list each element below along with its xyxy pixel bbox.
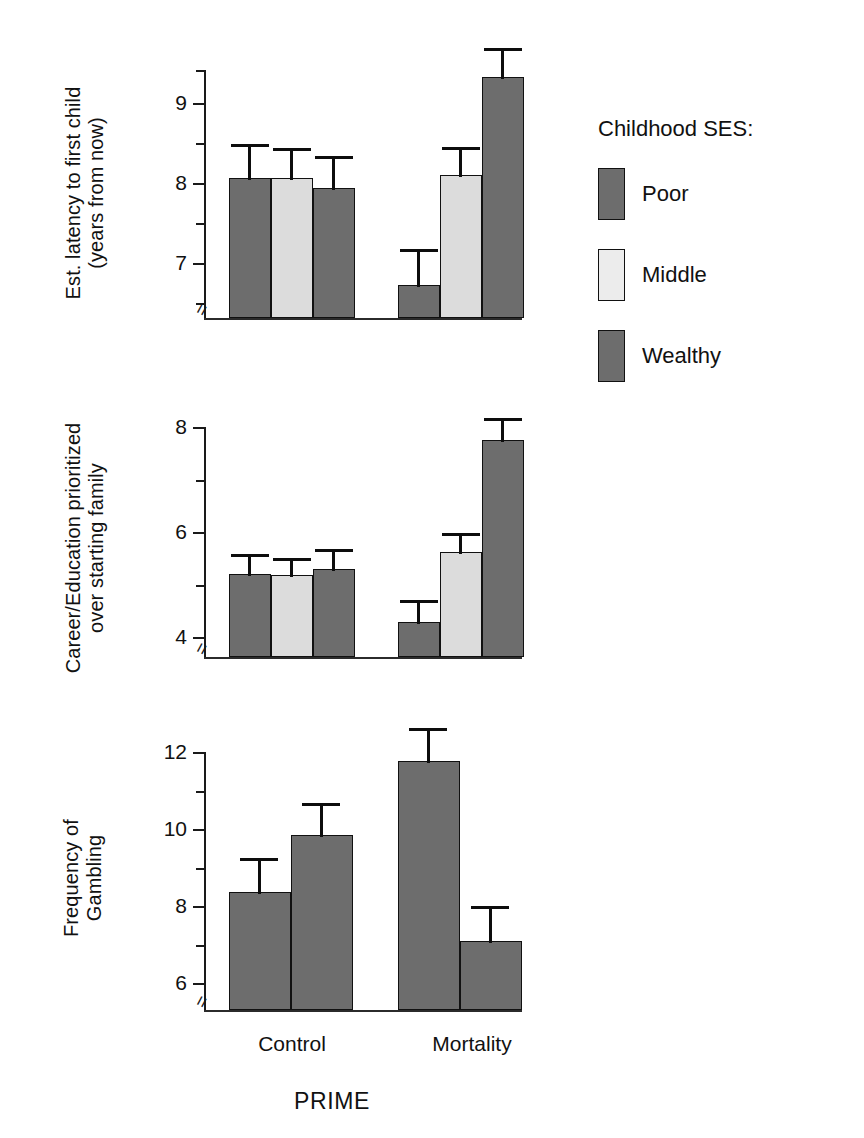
errorbar-latency-mortality-wealthy-cap bbox=[484, 48, 522, 51]
figure-canvas: Est. latency to first child (years from … bbox=[0, 0, 864, 1138]
bar-career-mortality-middle bbox=[440, 552, 482, 657]
bar-career-control-wealthy bbox=[313, 569, 355, 657]
errorbar-career-control-middle-cap bbox=[273, 558, 311, 561]
bar-latency-mortality-poor bbox=[398, 285, 440, 318]
legend-item-poor[interactable]: Poor bbox=[598, 168, 858, 220]
errorbar-career-control-wealthy-stem bbox=[332, 549, 335, 571]
panel-3-ticklabel-10: 10 bbox=[134, 818, 187, 839]
panel-1-minor-tick-9p5 bbox=[196, 70, 204, 72]
errorbar-latency-control-poor-cap bbox=[231, 144, 269, 147]
legend-item-middle[interactable]: Middle bbox=[598, 249, 858, 301]
panel-3-ticklabel-12: 12 bbox=[134, 741, 187, 762]
bar-gambling-mortality-2 bbox=[460, 941, 522, 1010]
errorbar-gambling-mortality-1-cap bbox=[409, 728, 447, 731]
panel-1-ticklabel-7: 7 bbox=[145, 252, 187, 273]
errorbar-latency-control-wealthy-stem bbox=[332, 156, 335, 190]
panel-1-tick-8 bbox=[193, 183, 204, 185]
bar-career-control-poor bbox=[229, 574, 271, 657]
errorbar-latency-mortality-middle-cap bbox=[442, 147, 480, 150]
bar-latency-control-middle bbox=[271, 178, 313, 318]
panel-1-plot-area: = 9 8 7 bbox=[0, 0, 600, 380]
errorbar-career-mortality-middle-stem bbox=[459, 533, 462, 554]
panel-1-minor-tick-7p5 bbox=[196, 223, 204, 225]
legend-swatch-wealthy bbox=[598, 330, 625, 382]
legend-swatch-middle bbox=[598, 249, 625, 301]
legend-swatch-poor bbox=[598, 168, 625, 220]
bar-gambling-mortality-1 bbox=[398, 761, 460, 1010]
panel-3-minor-tick-7 bbox=[196, 945, 204, 947]
panel-2-minor-tick-7 bbox=[196, 480, 204, 482]
panel-3-ticklabel-8: 8 bbox=[134, 895, 187, 916]
panel-3-minor-tick-11 bbox=[196, 791, 204, 793]
panel-2-axis-break-icon: = bbox=[191, 639, 213, 658]
panel-2-x-axis-line bbox=[204, 657, 522, 659]
errorbar-gambling-mortality-2-cap bbox=[471, 906, 509, 909]
errorbar-latency-control-middle-cap bbox=[273, 148, 311, 151]
legend-label-middle: Middle bbox=[642, 262, 707, 288]
bar-latency-control-poor bbox=[229, 178, 271, 318]
panel-2-tick-4 bbox=[193, 637, 204, 639]
legend: Childhood SES: Poor Middle Wealthy bbox=[598, 116, 858, 411]
errorbar-gambling-mortality-1-stem bbox=[427, 728, 430, 763]
panel-3-tick-12 bbox=[193, 752, 204, 754]
errorbar-latency-mortality-wealthy-stem bbox=[501, 48, 504, 79]
errorbar-career-mortality-wealthy-stem bbox=[501, 418, 504, 442]
panel-1-y-axis-line bbox=[204, 70, 206, 318]
bar-latency-mortality-wealthy bbox=[482, 77, 524, 318]
panel-1-ticklabel-8: 8 bbox=[145, 172, 187, 193]
panel-2-ticklabel-8: 8 bbox=[145, 416, 187, 437]
errorbar-gambling-control-2-cap bbox=[302, 803, 340, 806]
errorbar-gambling-control-1-cap bbox=[240, 858, 278, 861]
legend-label-wealthy: Wealthy bbox=[642, 343, 721, 369]
panel-1-tick-7 bbox=[193, 263, 204, 265]
x-category-label-control: Control bbox=[222, 1032, 362, 1056]
errorbar-career-control-poor-cap bbox=[231, 554, 269, 557]
errorbar-gambling-control-1-stem bbox=[258, 858, 261, 894]
errorbar-latency-mortality-poor-stem bbox=[417, 249, 420, 287]
panel-career: = 8 6 4 bbox=[0, 380, 600, 720]
bar-gambling-control-1 bbox=[229, 892, 291, 1010]
legend-label-poor: Poor bbox=[642, 181, 688, 207]
errorbar-career-mortality-middle-cap bbox=[442, 533, 480, 536]
panel-1-x-axis-line bbox=[204, 318, 522, 320]
errorbar-career-mortality-wealthy-cap bbox=[484, 418, 522, 421]
panel-2-minor-tick-5 bbox=[196, 585, 204, 587]
panel-3-minor-tick-9 bbox=[196, 868, 204, 870]
panel-3-plot-area: = 12 10 8 6 bbox=[0, 720, 600, 1020]
legend-item-wealthy[interactable]: Wealthy bbox=[598, 330, 858, 382]
panel-2-tick-6 bbox=[193, 532, 204, 534]
panel-2-y-axis-line bbox=[204, 427, 206, 657]
errorbar-latency-mortality-poor-cap bbox=[400, 249, 438, 252]
errorbar-career-mortality-poor-stem bbox=[417, 600, 420, 624]
errorbar-gambling-mortality-2-stem bbox=[489, 906, 492, 943]
bar-latency-control-wealthy bbox=[313, 188, 355, 318]
errorbar-latency-control-middle-stem bbox=[290, 148, 293, 180]
legend-title: Childhood SES: bbox=[598, 116, 858, 142]
errorbar-latency-control-poor-stem bbox=[248, 144, 251, 180]
bar-career-mortality-wealthy bbox=[482, 440, 524, 657]
panel-3-tick-8 bbox=[193, 906, 204, 908]
panel-3-tick-6 bbox=[193, 983, 204, 985]
errorbar-latency-control-wealthy-cap bbox=[315, 156, 353, 159]
panel-2-ticklabel-6: 6 bbox=[145, 521, 187, 542]
panel-2-ticklabel-4: 4 bbox=[145, 626, 187, 647]
panel-3-ticklabel-6: 6 bbox=[134, 972, 187, 993]
bar-career-control-middle bbox=[271, 575, 313, 657]
panel-3-x-axis-line bbox=[204, 1010, 522, 1012]
errorbar-career-mortality-poor-cap bbox=[400, 600, 438, 603]
panel-1-minor-tick-8p5 bbox=[196, 143, 204, 145]
x-axis-title: PRIME bbox=[222, 1088, 442, 1115]
panel-1-tick-9 bbox=[193, 103, 204, 105]
errorbar-latency-mortality-middle-stem bbox=[459, 147, 462, 177]
panel-3-tick-10 bbox=[193, 829, 204, 831]
panel-2-plot-area: = 8 6 4 bbox=[0, 380, 600, 720]
x-category-label-mortality: Mortality bbox=[392, 1032, 552, 1056]
bar-career-mortality-poor bbox=[398, 622, 440, 657]
bar-latency-mortality-middle bbox=[440, 175, 482, 318]
panel-1-minor-tick-6p5 bbox=[196, 303, 204, 305]
panel-2-tick-8 bbox=[193, 427, 204, 429]
errorbar-career-control-poor-stem bbox=[248, 554, 251, 576]
panel-gambling: = 12 10 8 6 bbox=[0, 720, 600, 1020]
panel-latency: = 9 8 7 bbox=[0, 0, 600, 380]
bar-gambling-control-2 bbox=[291, 835, 353, 1010]
